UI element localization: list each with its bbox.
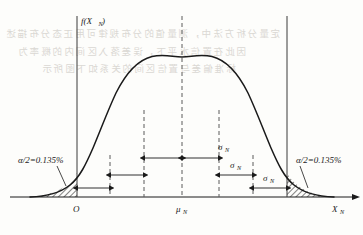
svg-text:N: N [182, 208, 188, 215]
svg-text:N: N [339, 208, 345, 215]
left-alpha-annotation: α/2=0.135% [18, 155, 66, 186]
svg-text:α/2=0.135%: α/2=0.135% [18, 155, 64, 165]
svg-text:): ) [101, 16, 105, 26]
sigma-label-3: σ N [263, 173, 275, 184]
sigma-label-2: σ N [230, 160, 242, 171]
mean-label: μ N [175, 204, 188, 215]
svg-text:X: X [331, 204, 338, 214]
svg-text:σ: σ [230, 160, 235, 170]
svg-text:N: N [224, 146, 230, 153]
svg-text:σ: σ [218, 142, 223, 152]
right-alpha-leader-line [300, 166, 308, 188]
y-axis-label: f(X N ) [81, 16, 105, 27]
origin-label: O [73, 204, 80, 214]
normal-distribution-figure: f(X N ) σ N σ N σ N α/2=0.135% α/2=0.135… [0, 0, 363, 235]
sigma-label-1: σ N [218, 142, 230, 153]
svg-text:σ: σ [263, 173, 268, 183]
svg-text:α/2=0.135%: α/2=0.135% [296, 155, 342, 165]
x-axis-label: X N [331, 204, 345, 215]
right-alpha-annotation: α/2=0.135% [296, 155, 342, 188]
svg-text:μ: μ [175, 204, 181, 214]
svg-text:N: N [269, 177, 275, 184]
svg-text:N: N [236, 164, 242, 171]
left-alpha-leader-line [57, 166, 66, 186]
svg-text:f(X: f(X [81, 16, 92, 26]
